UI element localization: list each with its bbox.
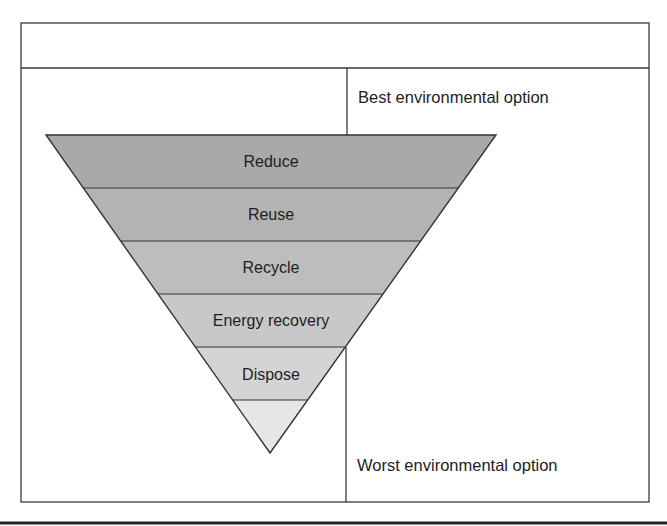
tier-label-dispose: Dispose: [242, 366, 300, 383]
tier-label-reduce: Reduce: [243, 153, 298, 170]
pyramid-tiers: [46, 135, 496, 453]
worst-option-label: Worst environmental option: [357, 456, 558, 474]
tier-band-bottom: [233, 400, 308, 453]
tier-label-energy-recovery: Energy recovery: [213, 312, 330, 329]
tier-label-reuse: Reuse: [248, 206, 294, 223]
waste-hierarchy-diagram: Reduce Reuse Recycle Energy recovery Dis…: [0, 0, 667, 526]
best-option-label: Best environmental option: [358, 88, 549, 106]
tier-label-recycle: Recycle: [243, 259, 300, 276]
